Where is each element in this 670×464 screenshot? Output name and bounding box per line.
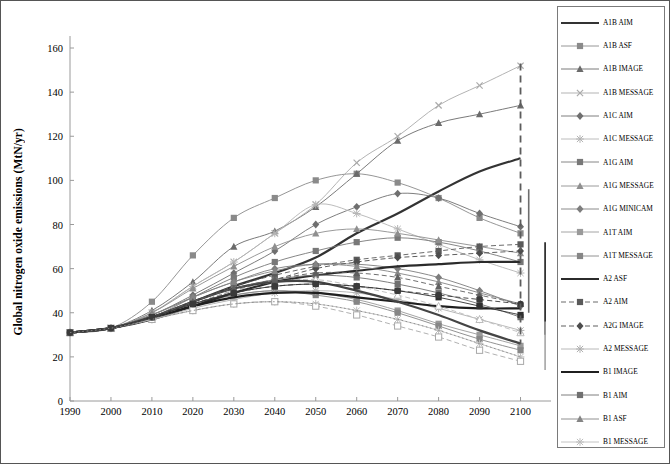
- y-tick-label: 160: [47, 43, 63, 54]
- legend-item-label: A1C AIM: [600, 112, 633, 120]
- legend-item-label: A1C MESSAGE: [600, 135, 653, 143]
- legend-swatch: [560, 202, 600, 216]
- data-point-marker: [272, 195, 278, 201]
- data-point-marker: [313, 177, 319, 183]
- legend-item[interactable]: A1G AIM: [560, 151, 662, 174]
- legend-swatch: [560, 62, 600, 76]
- data-point-marker: [476, 340, 484, 348]
- y-tick-label: 60: [53, 264, 64, 275]
- legend-item-label: B1 AIM: [600, 392, 627, 400]
- data-point-marker: [271, 229, 279, 237]
- legend-marker: [576, 345, 584, 353]
- data-point-marker: [395, 179, 401, 185]
- series-a1b-message: [67, 63, 524, 336]
- chart-panel: Global nitrogen oxide emissions (MtN/yr)…: [1, 1, 552, 463]
- data-point-marker: [517, 347, 523, 353]
- data-point-marker: [394, 287, 401, 294]
- series-line: [70, 302, 521, 357]
- legend-swatch: [560, 16, 600, 30]
- series-a1c-message: [66, 201, 524, 337]
- series-5-: [70, 302, 521, 357]
- x-tick-label: 2060: [346, 406, 367, 417]
- y-tick-label: 40: [53, 308, 64, 319]
- legend-item-label: A1G MINICAM: [600, 205, 653, 213]
- x-tick-label: 2100: [510, 406, 531, 417]
- legend-item[interactable]: B1 ASF: [560, 407, 662, 430]
- legend-item[interactable]: B1 MESSAGE: [560, 430, 662, 448]
- legend-item[interactable]: A1G MINICAM: [560, 197, 662, 220]
- legend-item[interactable]: A2 AIM: [560, 291, 662, 314]
- legend-item-label: A1B ASF: [600, 42, 632, 50]
- data-point-marker: [354, 299, 360, 305]
- legend-item[interactable]: A1T MESSAGE: [560, 244, 662, 267]
- legend-item[interactable]: A1G MESSAGE: [560, 174, 662, 197]
- data-point-marker: [231, 290, 238, 297]
- x-tick-label: 2050: [305, 406, 326, 417]
- legend-swatch: [560, 435, 600, 448]
- legend-item-label: B1 ASF: [600, 415, 627, 423]
- x-tick-label: 2040: [264, 406, 285, 417]
- legend-item-label: B1 MESSAGE: [600, 438, 648, 446]
- legend-item[interactable]: A2 ASF: [560, 267, 662, 290]
- legend-item-label: A2 AIM: [600, 298, 628, 306]
- x-tick-label: 2020: [182, 406, 203, 417]
- data-point-marker: [272, 299, 278, 305]
- data-point-marker: [395, 310, 401, 316]
- data-point-marker: [354, 239, 360, 245]
- series-line: [70, 302, 521, 357]
- data-point-marker: [395, 323, 401, 329]
- x-tick-label: 2070: [387, 406, 408, 417]
- data-point-marker: [476, 243, 482, 249]
- legend-item-label: A2 ASF: [600, 275, 627, 283]
- x-tick-label: 2000: [100, 406, 121, 417]
- legend-marker: [577, 299, 583, 305]
- legend-item-label: A1G AIM: [600, 159, 633, 167]
- legend-item-label: A1B MESSAGE: [600, 89, 653, 97]
- legend-marker: [577, 392, 583, 398]
- legend-item[interactable]: A2G IMAGE: [560, 314, 662, 337]
- y-tick-label: 20: [53, 352, 64, 363]
- legend-item[interactable]: A1B ASF: [560, 34, 662, 57]
- data-point-marker: [312, 201, 320, 209]
- data-point-marker: [395, 281, 401, 287]
- legend-marker: [576, 135, 584, 143]
- data-point-marker: [190, 252, 196, 258]
- legend-item-label: A1T MESSAGE: [600, 252, 653, 260]
- data-point-marker: [394, 190, 401, 198]
- legend-marker: [577, 43, 583, 49]
- legend-swatch: [560, 272, 600, 286]
- legend-item-label: A1T AIM: [600, 229, 632, 237]
- chart-page: Global nitrogen oxide emissions (MtN/yr)…: [0, 0, 670, 464]
- x-tick-label: 2090: [469, 406, 490, 417]
- legend-item[interactable]: A2 MESSAGE: [560, 337, 662, 360]
- legend-item[interactable]: A1B IMAGE: [560, 58, 662, 81]
- legend-marker: [577, 205, 584, 213]
- legend-marker: [577, 322, 584, 330]
- legend-swatch: [560, 155, 600, 169]
- legend-marker: [576, 438, 584, 446]
- x-tick-label: 2080: [428, 406, 449, 417]
- legend-swatch: [560, 319, 600, 333]
- legend-item[interactable]: B1 AIM: [560, 384, 662, 407]
- legend-item[interactable]: A1B AIM: [560, 11, 662, 34]
- legend-item[interactable]: A1C AIM: [560, 104, 662, 127]
- data-point-marker: [476, 296, 483, 303]
- data-point-marker: [312, 281, 319, 288]
- legend-item[interactable]: A1B MESSAGE: [560, 81, 662, 104]
- legend-swatch: [560, 179, 600, 193]
- legend-item[interactable]: B1 IMAGE: [560, 360, 662, 383]
- legend-item[interactable]: A1C MESSAGE: [560, 127, 662, 150]
- legend-item[interactable]: A1T AIM: [560, 221, 662, 244]
- chart-legend: A1B AIMA1B ASFA1B IMAGEA1B MESSAGEA1C AI…: [557, 6, 665, 448]
- y-tick-label: 140: [47, 87, 63, 98]
- legend-item-label: A2G IMAGE: [600, 322, 643, 330]
- legend-swatch: [560, 388, 600, 402]
- data-point-marker: [476, 82, 482, 88]
- legend-swatch: [560, 132, 600, 146]
- legend-swatch: [560, 39, 600, 53]
- data-point-marker: [149, 299, 155, 305]
- series-a1g-minicam: [67, 260, 525, 336]
- line-chart-svg: 0204060801001201401601990200020102020203…: [1, 1, 552, 463]
- data-point-marker: [353, 283, 360, 290]
- series-line: [70, 291, 521, 333]
